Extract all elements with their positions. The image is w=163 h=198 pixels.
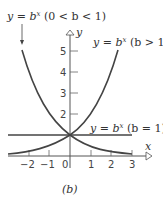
x-tick-3: 3	[129, 159, 135, 170]
y-ticks	[70, 51, 78, 114]
x-tick-2: 2	[108, 159, 114, 170]
x-tick-m2: −2	[20, 159, 35, 170]
y-tick-2: 2	[60, 109, 66, 120]
annotation-b-greater-than-1: y = bx (b > 1)	[92, 36, 163, 49]
annotation-b-equals-1: y = bx (b = 1)	[89, 122, 163, 135]
y-tick-5: 5	[60, 46, 66, 57]
exponential-chart: 5 4 3 2 −2 −1 0 1 2 3 y x y = bx (0 < b …	[0, 0, 163, 198]
x-tick-0: 0	[62, 159, 68, 170]
figure-caption: (b)	[62, 183, 78, 196]
y-axis-arrow-icon	[66, 30, 74, 35]
series-b-less-than-1	[22, 50, 132, 154]
arrow-head-icon	[20, 40, 24, 45]
x-axis-arrow-icon	[146, 152, 152, 160]
y-tick-4: 4	[60, 67, 66, 78]
x-tick-m1: −1	[40, 159, 55, 170]
annotation-b-less-than-1: y = bx (0 < b < 1)	[6, 10, 106, 23]
y-tick-3: 3	[60, 88, 66, 99]
y-axis-label: y	[75, 26, 83, 39]
x-tick-1: 1	[88, 159, 94, 170]
x-axis-label: x	[145, 140, 152, 153]
series-b-greater-than-1	[8, 50, 118, 154]
